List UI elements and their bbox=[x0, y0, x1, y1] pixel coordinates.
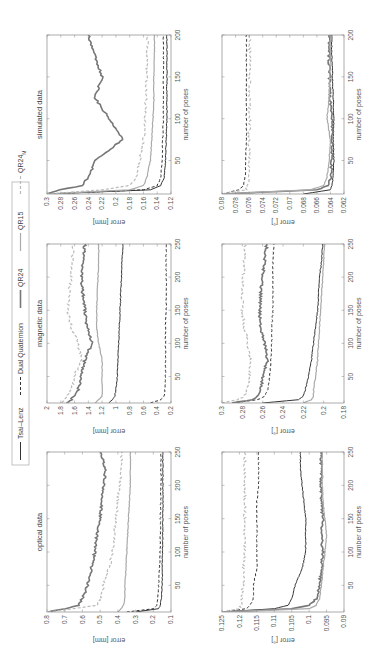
y-tick-label: 0.078 bbox=[232, 197, 239, 214]
series-group bbox=[222, 35, 335, 194]
series-line bbox=[46, 35, 123, 194]
axes-frame bbox=[47, 244, 171, 403]
x-tick-label: 250 bbox=[347, 446, 354, 457]
y-axis-label: error [mm] bbox=[93, 427, 125, 435]
y-tick-label: 0.095 bbox=[323, 615, 330, 632]
x-tick-label: 50 bbox=[347, 157, 354, 165]
plot-panel: 501001502000.120.140.160.180.20.220.240.… bbox=[35, 29, 190, 226]
y-tick-label: 0.28 bbox=[57, 197, 64, 210]
y-tick-label: 0.068 bbox=[300, 197, 307, 214]
x-tick-label: 150 bbox=[347, 304, 354, 315]
y-tick-label: 0.064 bbox=[327, 197, 334, 214]
series-group bbox=[48, 452, 163, 612]
legend: Tsai–LenzDual QuaternionQR24QR15QR24M bbox=[12, 151, 29, 465]
y-tick-label: 0.12 bbox=[167, 197, 174, 210]
y-tick-label: 0.22 bbox=[300, 406, 307, 419]
y-tick-label: 0.24 bbox=[279, 406, 286, 419]
y-tick-label: 1 bbox=[112, 406, 119, 410]
series-line bbox=[222, 35, 247, 194]
series-line bbox=[222, 244, 252, 403]
x-tick-label: 50 bbox=[174, 373, 181, 381]
y-tick-label: 0.7 bbox=[61, 615, 68, 624]
y-tick-label: 0.26 bbox=[259, 406, 266, 419]
series-line bbox=[136, 452, 163, 612]
y-tick-label: 1.8 bbox=[57, 406, 64, 415]
y-tick-label: 0.072 bbox=[272, 197, 279, 214]
y-tick-label: 0.062 bbox=[340, 197, 347, 214]
x-axis-label: number of poses bbox=[355, 297, 363, 350]
x-tick-label: 100 bbox=[347, 546, 354, 557]
series-line bbox=[109, 244, 123, 403]
axes-frame bbox=[47, 452, 171, 612]
x-tick-label: 100 bbox=[174, 338, 181, 349]
y-tick-label: 0.3 bbox=[218, 406, 225, 415]
y-tick-label: 0.28 bbox=[239, 406, 246, 419]
plot-panel: 501001502002500.180.20.220.240.260.280.3… bbox=[218, 238, 363, 435]
y-tick-label: 0.8 bbox=[126, 406, 133, 415]
series-group bbox=[221, 452, 326, 612]
y-tick-label: 2 bbox=[43, 406, 50, 410]
y-tick-label: 0.3 bbox=[43, 197, 50, 206]
series-line bbox=[127, 452, 162, 612]
series-group bbox=[222, 244, 325, 403]
series-line bbox=[263, 244, 323, 403]
y-tick-label: 0.12 bbox=[236, 615, 243, 628]
x-tick-label: 100 bbox=[174, 113, 181, 124]
series-line bbox=[95, 244, 102, 403]
x-axis-label: number of poses bbox=[182, 297, 190, 350]
series-line bbox=[222, 452, 327, 612]
x-tick-label: 200 bbox=[174, 29, 181, 40]
y-tick-label: 0.1 bbox=[305, 615, 312, 624]
y-tick-label: 0.2 bbox=[320, 406, 327, 415]
plot-panels: 501001502002500.10.20.30.40.50.60.70.8nu… bbox=[35, 29, 363, 644]
x-tick-label: 100 bbox=[347, 338, 354, 349]
y-axis-label: error [°] bbox=[271, 427, 294, 435]
x-axis-label: number of poses bbox=[182, 88, 190, 141]
y-tick-label: 0.6 bbox=[140, 406, 147, 415]
series-line bbox=[47, 35, 155, 194]
y-tick-label: 0.24 bbox=[85, 197, 92, 210]
y-tick-label: 0.11 bbox=[270, 615, 277, 628]
y-tick-label: 1.4 bbox=[85, 406, 92, 415]
x-tick-label: 200 bbox=[174, 480, 181, 491]
series-line bbox=[233, 244, 274, 403]
series-line bbox=[222, 452, 306, 612]
y-tick-label: 0.4 bbox=[114, 615, 121, 624]
legend-label: QR24M bbox=[17, 151, 27, 173]
y-axis-label: error [°] bbox=[271, 636, 294, 644]
legend-label: QR15 bbox=[17, 212, 25, 230]
y-tick-label: 0.22 bbox=[98, 197, 105, 210]
plot-title: optical data bbox=[35, 512, 44, 551]
y-tick-label: 0.074 bbox=[259, 197, 266, 214]
axes-frame bbox=[222, 244, 344, 403]
y-tick-label: 0.18 bbox=[126, 197, 133, 210]
series-group bbox=[46, 35, 167, 194]
plot-panel: 501001502000.0620.0640.0660.0680.070.072… bbox=[218, 29, 363, 226]
y-tick-label: 0.8 bbox=[43, 615, 50, 624]
rotated-figure-frame: Tsai–LenzDual QuaternionQR24QR15QR24M 50… bbox=[12, 29, 363, 644]
y-tick-label: 0.076 bbox=[245, 197, 252, 214]
y-tick-label: 0.4 bbox=[153, 406, 160, 415]
plot-panel: 501001502002500.090.0950.10.1050.110.115… bbox=[218, 446, 363, 644]
y-tick-label: 0.2 bbox=[149, 615, 156, 624]
x-tick-label: 50 bbox=[347, 373, 354, 381]
y-tick-label: 0.14 bbox=[153, 197, 160, 210]
series-line bbox=[222, 35, 333, 194]
x-tick-label: 50 bbox=[174, 157, 181, 165]
series-group bbox=[62, 244, 167, 403]
y-tick-label: 0.2 bbox=[167, 406, 174, 415]
axes-frame bbox=[222, 35, 344, 194]
series-line bbox=[232, 244, 268, 403]
x-tick-label: 100 bbox=[347, 113, 354, 124]
series-line bbox=[221, 452, 246, 612]
series-line bbox=[222, 452, 259, 612]
x-tick-label: 250 bbox=[174, 446, 181, 457]
y-axis-label: error [mm] bbox=[93, 218, 125, 226]
series-line bbox=[62, 244, 82, 403]
y-tick-label: 0.26 bbox=[71, 197, 78, 210]
x-tick-label: 150 bbox=[347, 513, 354, 524]
y-tick-label: 0.18 bbox=[340, 406, 347, 419]
y-tick-label: 0.115 bbox=[253, 615, 260, 631]
series-line bbox=[48, 452, 106, 612]
series-line bbox=[47, 35, 164, 194]
